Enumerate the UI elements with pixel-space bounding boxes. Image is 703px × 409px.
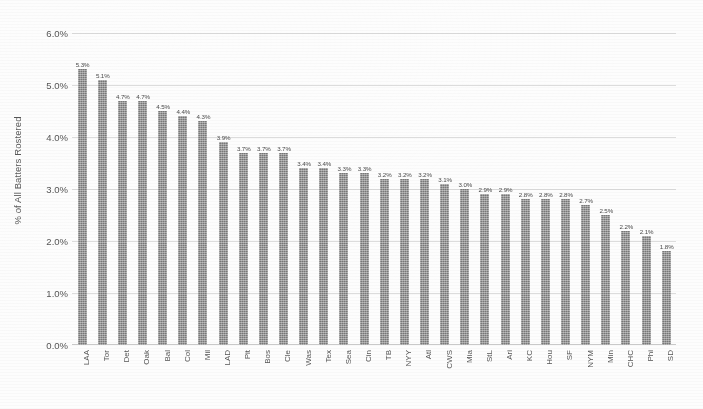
bar-slot: 5.3% bbox=[72, 33, 92, 345]
x-axis-tick-slot: Det bbox=[112, 348, 132, 404]
bar[interactable]: 2.8% bbox=[521, 199, 530, 345]
bar-value-label: 2.9% bbox=[499, 186, 513, 193]
bar-value-label: 2.8% bbox=[539, 191, 553, 198]
bar-slot: 2.9% bbox=[495, 33, 515, 345]
bar[interactable]: 4.4% bbox=[178, 116, 187, 345]
x-axis-tick-label: KC bbox=[525, 350, 534, 361]
bar-slot: 3.3% bbox=[354, 33, 374, 345]
bar[interactable]: 3.4% bbox=[319, 168, 328, 345]
bar[interactable]: 1.8% bbox=[662, 251, 671, 345]
bar-value-label: 3.7% bbox=[257, 145, 271, 152]
x-axis-tick-label: TB bbox=[384, 350, 393, 360]
bar-slot: 2.2% bbox=[616, 33, 636, 345]
x-axis-tick-label: Cin bbox=[364, 350, 373, 362]
y-axis-tick-label: 3.0% bbox=[24, 184, 68, 195]
bar[interactable]: 2.5% bbox=[601, 215, 610, 345]
bar[interactable]: 4.5% bbox=[158, 111, 167, 345]
bar[interactable]: 2.8% bbox=[561, 199, 570, 345]
bar-value-label: 3.3% bbox=[358, 165, 372, 172]
x-axis-tick-label: Oak bbox=[142, 350, 151, 365]
bar[interactable]: 3.3% bbox=[339, 173, 348, 345]
bar-value-label: 3.4% bbox=[317, 160, 331, 167]
x-axis-tick-label: Mil bbox=[203, 350, 212, 360]
x-axis-tick-slot: KC bbox=[515, 348, 535, 404]
bar[interactable]: 3.2% bbox=[420, 179, 429, 345]
x-axis-tick-slot: Cle bbox=[273, 348, 293, 404]
y-axis-tick-label: 5.0% bbox=[24, 80, 68, 91]
bar[interactable]: 4.3% bbox=[198, 121, 207, 345]
bar-slot: 3.2% bbox=[374, 33, 394, 345]
bar[interactable]: 3.4% bbox=[299, 168, 308, 345]
y-axis-tick-label: 2.0% bbox=[24, 236, 68, 247]
x-axis-tick-slot: Min bbox=[596, 348, 616, 404]
bar-slot: 1.8% bbox=[656, 33, 676, 345]
bar[interactable]: 3.7% bbox=[279, 153, 288, 345]
bar-slot: 5.1% bbox=[92, 33, 112, 345]
bar-chart: % of All Batters Rostered 6.0%5.0%4.0%3.… bbox=[0, 0, 703, 409]
x-axis-tick-label: Tor bbox=[102, 350, 111, 361]
bar[interactable]: 5.1% bbox=[98, 80, 107, 345]
bar[interactable]: 2.8% bbox=[541, 199, 550, 345]
bar-value-label: 3.9% bbox=[217, 134, 231, 141]
bar[interactable]: 2.2% bbox=[621, 231, 630, 345]
bar[interactable]: 3.1% bbox=[440, 184, 449, 345]
x-axis-tick-label: Pit bbox=[243, 350, 252, 359]
x-axis-tick-label: SF bbox=[565, 350, 574, 360]
bar-slot: 3.0% bbox=[455, 33, 475, 345]
bar-slot: 3.7% bbox=[253, 33, 273, 345]
bar[interactable]: 2.9% bbox=[480, 194, 489, 345]
x-axis-tick-label: LAD bbox=[223, 350, 232, 366]
bar[interactable]: 3.7% bbox=[259, 153, 268, 345]
bar-value-label: 5.1% bbox=[96, 72, 110, 79]
x-axis-tick-slot: Was bbox=[294, 348, 314, 404]
bar[interactable]: 3.9% bbox=[219, 142, 228, 345]
bar-value-label: 1.8% bbox=[660, 243, 674, 250]
bar[interactable]: 4.7% bbox=[118, 101, 127, 345]
x-axis-tick-labels: LAATorDetOakBalColMilLADPitBosCleWasTexS… bbox=[72, 348, 676, 404]
bar[interactable]: 2.7% bbox=[581, 205, 590, 345]
bar[interactable]: 3.3% bbox=[360, 173, 369, 345]
bar-slot: 2.5% bbox=[596, 33, 616, 345]
bar[interactable]: 3.2% bbox=[380, 179, 389, 345]
bar[interactable]: 3.2% bbox=[400, 179, 409, 345]
bar-slot: 4.5% bbox=[153, 33, 173, 345]
bar-value-label: 3.2% bbox=[398, 171, 412, 178]
bar-value-label: 2.8% bbox=[519, 191, 533, 198]
bar-value-label: 2.5% bbox=[599, 207, 613, 214]
x-axis-tick-label: Bal bbox=[163, 350, 172, 362]
bar-value-label: 2.9% bbox=[479, 186, 493, 193]
y-axis-tick-labels: 6.0%5.0%4.0%3.0%2.0%1.0%0.0% bbox=[24, 0, 68, 409]
bar[interactable]: 2.1% bbox=[642, 236, 651, 345]
bar[interactable]: 2.9% bbox=[501, 194, 510, 345]
x-axis-tick-slot: Bal bbox=[153, 348, 173, 404]
x-axis-tick-label: Atl bbox=[424, 350, 433, 359]
bar[interactable]: 3.7% bbox=[239, 153, 248, 345]
bar-value-label: 4.5% bbox=[156, 103, 170, 110]
x-axis-tick-slot: Phi bbox=[636, 348, 656, 404]
x-axis-tick-slot: StL bbox=[475, 348, 495, 404]
bar[interactable]: 5.3% bbox=[78, 69, 87, 345]
x-axis-tick-slot: Cin bbox=[354, 348, 374, 404]
y-axis-tick-label: 1.0% bbox=[24, 288, 68, 299]
x-axis-tick-slot: Bos bbox=[253, 348, 273, 404]
x-axis-tick-slot: Col bbox=[173, 348, 193, 404]
y-axis-title-label: % of All Batters Rostered bbox=[12, 116, 23, 224]
bar-slot: 3.4% bbox=[314, 33, 334, 345]
x-axis-tick-slot: CWS bbox=[435, 348, 455, 404]
x-axis-tick-label: Was bbox=[304, 350, 313, 366]
bar[interactable]: 4.7% bbox=[138, 101, 147, 345]
bar[interactable]: 3.0% bbox=[460, 189, 469, 345]
bar-value-label: 3.7% bbox=[277, 145, 291, 152]
x-axis-tick-label: Bos bbox=[263, 350, 272, 364]
x-axis-tick-label: StL bbox=[485, 350, 494, 362]
bar-slot: 4.4% bbox=[173, 33, 193, 345]
x-axis-tick-label: Phi bbox=[646, 350, 655, 362]
bar-slot: 2.7% bbox=[576, 33, 596, 345]
bar-value-label: 3.4% bbox=[297, 160, 311, 167]
x-axis-tick-slot: Ari bbox=[495, 348, 515, 404]
bar-value-label: 2.8% bbox=[559, 191, 573, 198]
x-axis-tick-slot: LAA bbox=[72, 348, 92, 404]
bar-series: 5.3%5.1%4.7%4.7%4.5%4.4%4.3%3.9%3.7%3.7%… bbox=[72, 33, 676, 345]
bar-slot: 3.2% bbox=[394, 33, 414, 345]
x-axis-tick-label: SD bbox=[666, 350, 675, 361]
